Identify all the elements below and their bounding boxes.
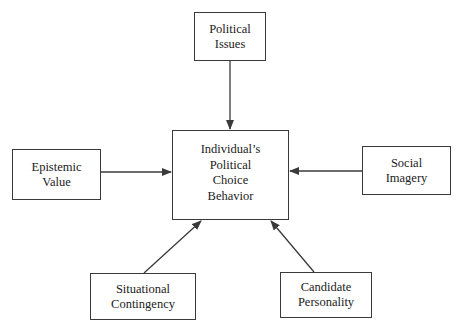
node-candidate-personality: Candidate Personality (280, 272, 372, 318)
node-label-line: Value (42, 175, 70, 190)
node-label-line: Political (209, 22, 251, 37)
node-label-line: Issues (215, 37, 246, 52)
arrow-situational-contingency (144, 221, 201, 273)
node-label-line: Personality (298, 295, 354, 310)
node-label-line: Political (210, 158, 252, 174)
node-label-line: Choice (213, 173, 248, 189)
node-label-line: Imagery (386, 171, 428, 186)
node-individual-political-choice-behavior: Individual’s Political Choice Behavior (172, 130, 289, 220)
arrow-candidate-personality (271, 221, 314, 272)
node-label-line: Candidate (301, 280, 352, 295)
node-situational-contingency: Situational Contingency (90, 273, 196, 320)
node-epistemic-value: Epistemic Value (12, 149, 101, 200)
node-political-issues: Political Issues (194, 12, 266, 61)
node-label-line: Social (391, 156, 422, 171)
node-social-imagery: Social Imagery (362, 146, 451, 195)
node-label-line: Situational (116, 282, 170, 297)
node-label-line: Contingency (111, 297, 175, 312)
node-label-line: Epistemic (32, 160, 82, 175)
node-label-line: Behavior (208, 189, 254, 205)
node-label-line: Individual’s (201, 142, 261, 158)
